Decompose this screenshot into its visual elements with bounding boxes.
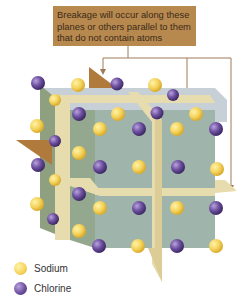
chlorine-atom [132, 122, 146, 136]
sodium-atom [30, 197, 44, 211]
sodium-atom [132, 160, 146, 174]
sodium-atom [72, 224, 86, 238]
chlorine-atom [72, 187, 86, 201]
sodium-atom [72, 146, 86, 160]
chlorine-atom [170, 239, 184, 253]
chlorine-atom [72, 107, 86, 121]
legend-item-sodium: Sodium [14, 258, 71, 278]
sodium-swatch-icon [14, 262, 27, 275]
sodium-atom [189, 107, 203, 121]
callout-line-3: that do not contain atoms [57, 32, 192, 44]
chlorine-atom [209, 122, 223, 136]
callout-line-2: planes or others parallel to them [57, 21, 192, 33]
sodium-atom [71, 78, 85, 92]
chlorine-atom [151, 107, 164, 120]
sodium-atom [111, 107, 125, 121]
sodium-atom [170, 122, 184, 136]
callout-line-1: Breakage will occur along these [57, 9, 192, 21]
sodium-atom [209, 239, 223, 253]
legend-label: Chlorine [34, 283, 71, 294]
chlorine-atom [49, 135, 61, 147]
chlorine-atom [93, 160, 107, 174]
chlorine-swatch-icon [14, 282, 27, 295]
chlorine-atom [31, 76, 45, 90]
chlorine-atom [92, 239, 106, 253]
sodium-atom [210, 162, 224, 176]
chlorine-atom [132, 201, 146, 215]
chlorine-atom [31, 158, 45, 172]
sodium-atom [131, 239, 145, 253]
chlorine-atom [47, 213, 59, 225]
legend-label: Sodium [34, 263, 68, 274]
sodium-atom [30, 119, 44, 133]
sodium-atom [93, 122, 107, 136]
sodium-atom [93, 201, 107, 215]
sodium-atom [170, 201, 184, 215]
legend-item-chlorine: Chlorine [14, 278, 71, 298]
sodium-atom [49, 94, 61, 106]
sodium-atom [49, 174, 61, 186]
callout-box: Breakage will occur along these planes o… [53, 6, 196, 46]
chlorine-atom [111, 78, 124, 91]
chlorine-atom [171, 160, 185, 174]
chlorine-atom [209, 201, 223, 215]
chlorine-atom [167, 89, 179, 101]
legend: Sodium Chlorine [14, 258, 71, 298]
sodium-atom [148, 78, 162, 92]
